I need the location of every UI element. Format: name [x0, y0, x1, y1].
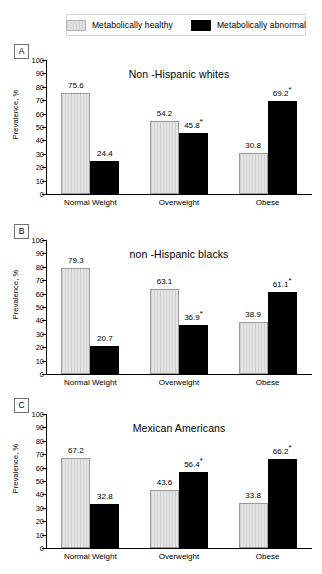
y-tick-label: 70: [22, 277, 44, 285]
bar-value-label: 79.3: [68, 257, 84, 265]
y-tick-label: 0: [22, 371, 44, 379]
bar-value-label: 20.7: [97, 335, 113, 343]
plot-area: 0102030405060708090100Mexican Americans6…: [46, 414, 312, 548]
bar-healthy: [239, 503, 268, 548]
y-tick-label: 60: [22, 110, 44, 118]
x-category-label: Normal Weight: [64, 379, 117, 387]
y-tick-label: 0: [22, 191, 44, 199]
legend-item-healthy: Metabolically healthy: [66, 20, 173, 31]
y-tick-label: 10: [22, 531, 44, 539]
y-tick-label: 100: [22, 57, 44, 65]
y-tick-label: 10: [22, 357, 44, 365]
panel-title: non -Hispanic blacks: [46, 248, 312, 260]
bar-value-label: 43.6: [157, 479, 173, 487]
y-tick-label: 70: [22, 451, 44, 459]
bar-healthy: [150, 121, 179, 194]
plot-area: 0102030405060708090100non -Hispanic blac…: [46, 240, 312, 374]
y-tick-label: 50: [22, 124, 44, 132]
panel-b: BPrevalence, %0102030405060708090100non …: [0, 222, 322, 400]
figure-root: Metabolically healthy Metabolically abno…: [0, 0, 322, 574]
y-tick-label: 30: [22, 330, 44, 338]
x-category-label: Overweight: [159, 553, 199, 561]
x-category-label: Obese: [256, 199, 280, 207]
bar-value-label: 67.2: [68, 447, 84, 455]
y-tick-label: 50: [22, 304, 44, 312]
bar-abnormal: [268, 459, 297, 548]
bar-value-label: 54.2: [157, 110, 173, 118]
bar-abnormal: [179, 325, 208, 374]
legend-swatch-healthy-icon: [66, 20, 86, 31]
x-axis-line: [46, 374, 312, 375]
bar-value-label: 32.8: [97, 493, 113, 501]
y-axis-line: [46, 60, 47, 194]
y-tick-label: 60: [22, 290, 44, 298]
y-tick-label: 50: [22, 478, 44, 486]
y-tick-label: 60: [22, 464, 44, 472]
bar-value-label: 63.1: [157, 278, 173, 286]
bar-value-label: 69.2*: [273, 90, 292, 98]
x-category-label: Overweight: [159, 379, 199, 387]
bar-healthy: [61, 458, 90, 548]
y-tick-label: 70: [22, 97, 44, 105]
bar-healthy: [150, 289, 179, 374]
x-axis-line: [46, 194, 312, 195]
panel-a: APrevalence, %0102030405060708090100Non …: [0, 42, 322, 220]
legend-item-abnormal: Metabolically abnormal: [191, 20, 306, 31]
y-tick-label: 90: [22, 70, 44, 78]
y-tick-label: 100: [22, 237, 44, 245]
y-tick-label: 40: [22, 137, 44, 145]
x-category-label: Overweight: [159, 199, 199, 207]
x-category-label: Obese: [256, 553, 280, 561]
bar-value-label: 66.2*: [273, 448, 292, 456]
panel-title: Mexican Americans: [46, 422, 312, 434]
legend-label-healthy: Metabolically healthy: [92, 21, 173, 30]
bar-abnormal: [268, 101, 297, 194]
y-tick-label: 30: [22, 150, 44, 158]
bar-value-label: 38.9: [245, 311, 261, 319]
y-tick-label: 80: [22, 437, 44, 445]
y-tick-label: 0: [22, 545, 44, 553]
y-tick-label: 90: [22, 250, 44, 258]
y-axis-label: Prevalence, %: [11, 80, 20, 150]
y-axis-line: [46, 414, 47, 548]
y-tick-label: 20: [22, 344, 44, 352]
plot-area: 0102030405060708090100Non -Hispanic whit…: [46, 60, 312, 194]
y-tick-label: 40: [22, 317, 44, 325]
bar-value-label: 24.4: [97, 150, 113, 158]
bar-value-label: 75.6: [68, 82, 84, 90]
bar-value-label: 61.1*: [273, 281, 292, 289]
bar-healthy: [239, 322, 268, 374]
bar-abnormal: [90, 504, 119, 548]
bar-abnormal: [179, 472, 208, 548]
legend-swatch-abnormal-icon: [191, 20, 211, 31]
y-tick-label: 90: [22, 424, 44, 432]
bar-abnormal: [268, 292, 297, 374]
x-category-label: Normal Weight: [64, 553, 117, 561]
y-tick-label: 10: [22, 177, 44, 185]
y-axis-line: [46, 240, 47, 374]
y-tick-label: 80: [22, 263, 44, 271]
y-axis-label: Prevalence, %: [11, 260, 20, 330]
legend-label-abnormal: Metabolically abnormal: [217, 21, 306, 30]
bar-healthy: [61, 93, 90, 194]
y-tick-label: 20: [22, 164, 44, 172]
bar-value-label: 45.8*: [184, 122, 203, 130]
bar-abnormal: [179, 133, 208, 194]
bar-value-label: 30.8: [245, 142, 261, 150]
bar-abnormal: [90, 161, 119, 194]
bar-abnormal: [90, 346, 119, 374]
y-tick-label: 30: [22, 504, 44, 512]
bar-healthy: [61, 268, 90, 374]
y-tick-label: 100: [22, 411, 44, 419]
bar-healthy: [150, 490, 179, 548]
x-category-label: Normal Weight: [64, 199, 117, 207]
bar-healthy: [239, 153, 268, 194]
panel-title: Non -Hispanic whites: [46, 68, 312, 80]
panel-c: CPrevalence, %0102030405060708090100Mexi…: [0, 396, 322, 574]
x-axis-line: [46, 548, 312, 549]
y-tick-label: 20: [22, 518, 44, 526]
y-axis-label: Prevalence, %: [11, 434, 20, 504]
chart-legend: Metabolically healthy Metabolically abno…: [66, 14, 306, 36]
bar-value-label: 56.4*: [184, 461, 203, 469]
bar-value-label: 36.9*: [184, 314, 203, 322]
